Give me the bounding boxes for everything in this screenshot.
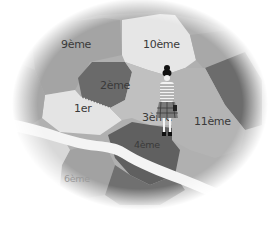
illustrated-map: 9ème 10ème 2ème 1er 3ème 11ème 4ème 6ème	[0, 0, 272, 234]
label-11eme: 11ème	[194, 115, 231, 128]
label-6eme: 6ème	[64, 173, 90, 184]
label-4eme: 4ème	[134, 139, 160, 150]
map-canvas: 9ème 10ème 2ème 1er 3ème 11ème 4ème 6ème	[0, 0, 272, 234]
label-2eme: 2ème	[100, 79, 131, 92]
label-10eme: 10ème	[143, 38, 180, 51]
label-9eme: 9ème	[61, 38, 92, 51]
label-1er: 1er	[74, 102, 92, 115]
